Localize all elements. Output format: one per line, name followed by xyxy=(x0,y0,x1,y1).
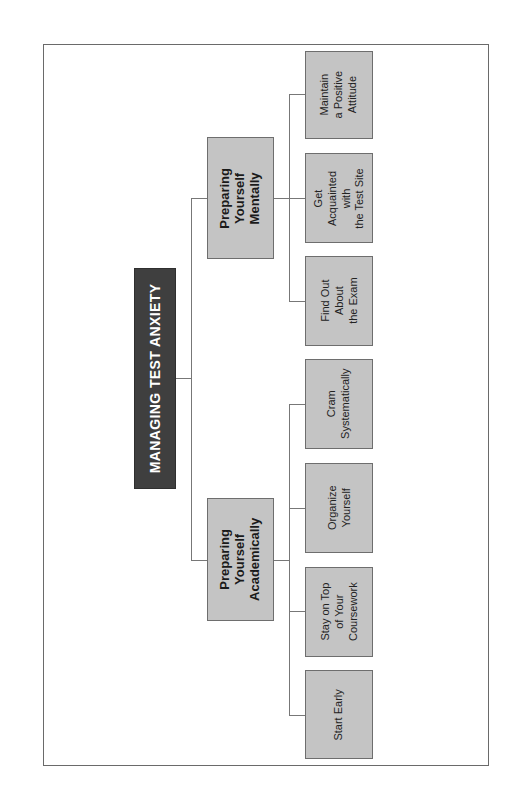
connector-main-spine xyxy=(191,198,192,561)
connector-leaf-find-out xyxy=(289,301,305,302)
leaf-node-find-out-about-exam: Find Out About the Exam xyxy=(305,256,373,346)
leaf-node-label: Find Out About the Exam xyxy=(318,278,359,324)
connector-mentally-out xyxy=(274,198,289,199)
leaf-node-cram-systematically: Cram Systematically xyxy=(305,359,373,449)
connector-leaf-organize xyxy=(289,508,305,509)
connector-branch-mentally xyxy=(191,198,207,199)
leaf-node-get-acquainted: Get Acquainted with the Test Site xyxy=(305,153,373,243)
branch-node-academically: Preparing Yourself Academically xyxy=(207,498,274,621)
connector-leaf-stay-on-top xyxy=(289,611,305,612)
connector-leaf-start-early xyxy=(289,715,305,716)
leaf-node-start-early: Start Early xyxy=(305,670,373,759)
connector-branch-academically xyxy=(191,560,207,561)
connector-leaf-get-acquainted xyxy=(289,198,305,199)
connector-academically-spine xyxy=(289,404,290,716)
leaf-node-maintain-positive-attitude: Maintain a Positive Attitude xyxy=(305,51,373,139)
leaf-node-organize-yourself: Organize Yourself xyxy=(305,463,373,553)
leaf-node-label: Maintain a Positive Attitude xyxy=(318,71,359,119)
root-node-label: MANAGING TEST ANXIETY xyxy=(147,284,164,474)
leaf-node-stay-on-top: Stay on Top of Your Coursework xyxy=(305,567,373,657)
leaf-node-label: Cram Systematically xyxy=(325,369,353,439)
leaf-node-label: Start Early xyxy=(332,689,346,740)
leaf-node-label: Get Acquainted with the Test Site xyxy=(312,165,367,231)
connector-leaf-maintain xyxy=(289,94,305,95)
connector-academically-out xyxy=(274,560,289,561)
root-node: MANAGING TEST ANXIETY xyxy=(134,268,176,489)
branch-node-mentally: Preparing Yourself Mentally xyxy=(207,137,274,259)
connector-leaf-cram xyxy=(289,404,305,405)
branch-node-academically-label: Preparing Yourself Academically xyxy=(218,518,263,601)
leaf-node-label: Organize Yourself xyxy=(325,486,353,531)
connector-root xyxy=(176,378,191,379)
branch-node-mentally-label: Preparing Yourself Mentally xyxy=(218,168,263,229)
leaf-node-label: Stay on Top of Your Coursework xyxy=(318,583,359,642)
